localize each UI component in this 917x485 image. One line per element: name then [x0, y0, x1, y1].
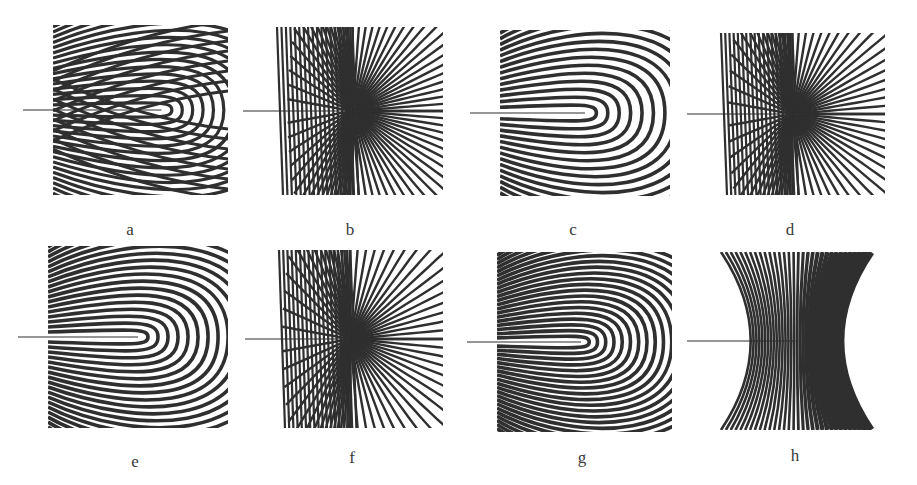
panel-label-a: a [110, 220, 150, 240]
panel-label-d: d [770, 220, 810, 240]
panel-e [18, 246, 228, 428]
panel-c [470, 30, 670, 196]
panel-label-e: e [115, 452, 155, 472]
panel-label-c: c [553, 220, 593, 240]
panel-b [243, 27, 443, 195]
panel-label-g: g [562, 448, 602, 468]
panel-f [245, 250, 443, 428]
panel-g [467, 252, 672, 432]
panel-label-f: f [332, 448, 372, 468]
panel-label-b: b [330, 220, 370, 240]
panel-a [23, 25, 228, 195]
panel-label-h: h [775, 446, 815, 466]
panel-h [687, 252, 880, 430]
panel-d [687, 33, 885, 195]
